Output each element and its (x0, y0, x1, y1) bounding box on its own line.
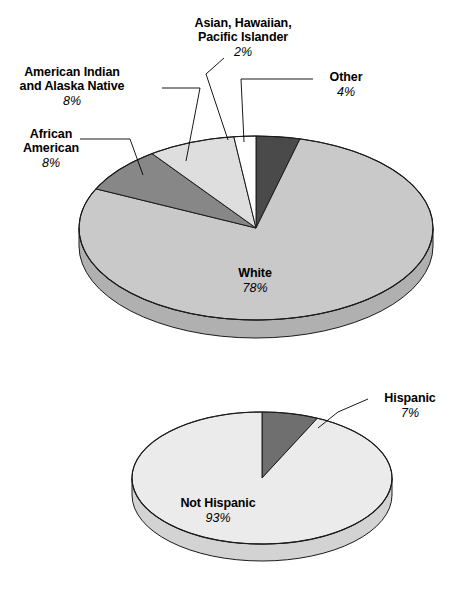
leader-line-other (241, 79, 313, 142)
label-other-line1: Other (316, 70, 376, 85)
label-asian-line2: Pacific Islander (163, 30, 323, 45)
label-african-american-line2: American (6, 141, 96, 156)
label-american-indian-line1: American Indian (8, 65, 136, 80)
label-white-pct: 78% (222, 281, 288, 296)
label-african-american-pct: 8% (6, 156, 96, 171)
label-african-american-line1: African (6, 127, 96, 142)
label-other-pct: 4% (316, 85, 376, 100)
label-white: White 78% (222, 266, 288, 296)
label-american-indian-alaska-native: American Indian and Alaska Native 8% (8, 65, 136, 108)
label-hispanic: Hispanic 7% (370, 391, 450, 421)
label-asian-hawaiian-pacific-islander: Asian, Hawaiian, Pacific Islander 2% (163, 16, 323, 59)
label-hispanic-line1: Hispanic (370, 391, 450, 406)
leader-line-asian (206, 58, 228, 140)
label-american-indian-line2: and Alaska Native (8, 79, 136, 94)
label-asian-pct: 2% (163, 45, 323, 60)
pie-chart-figure: Asian, Hawaiian, Pacific Islander 2% Ame… (0, 0, 458, 597)
label-hispanic-pct: 7% (370, 406, 450, 421)
label-not-hispanic-line1: Not Hispanic (163, 496, 273, 511)
pie-ethnicity-pie (132, 412, 392, 561)
label-asian-line1: Asian, Hawaiian, (163, 16, 323, 31)
label-african-american: African American 8% (6, 127, 96, 170)
label-not-hispanic-pct: 93% (163, 511, 273, 526)
label-not-hispanic: Not Hispanic 93% (163, 496, 273, 526)
pie-race-pie (79, 136, 433, 338)
label-american-indian-pct: 8% (8, 94, 136, 109)
label-other: Other 4% (316, 70, 376, 100)
label-white-line1: White (222, 266, 288, 281)
